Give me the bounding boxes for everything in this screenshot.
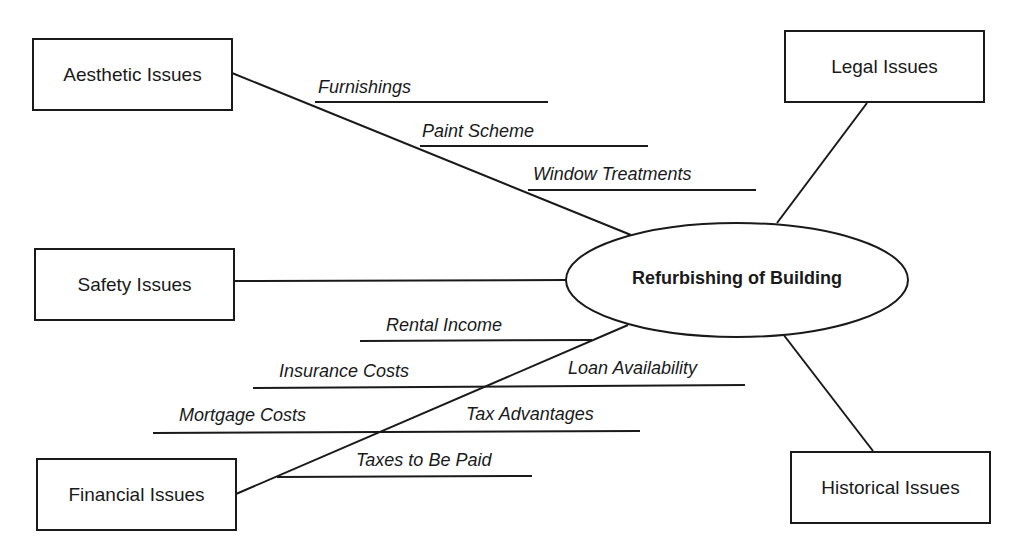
historical-issues-label: Historical Issues xyxy=(821,477,959,499)
aesthetic-connector xyxy=(232,73,631,235)
rental-income-underline xyxy=(360,340,592,341)
financial-issues-label: Financial Issues xyxy=(68,484,204,506)
subtopic-insurance-costs: Insurance Costs xyxy=(279,361,409,382)
subtopic-tax-advantages: Tax Advantages xyxy=(466,404,594,425)
legal-connector xyxy=(777,103,867,223)
subtopic-window-treatments: Window Treatments xyxy=(533,164,692,185)
subtopic-taxes-to-be-paid: Taxes to Be Paid xyxy=(356,450,491,471)
legal-issues-box: Legal Issues xyxy=(784,30,985,103)
aesthetic-issues-label: Aesthetic Issues xyxy=(63,64,201,86)
center-topic-label: Refurbishing of Building xyxy=(566,268,908,289)
subtopic-rental-income: Rental Income xyxy=(386,315,502,336)
safety-issues-label: Safety Issues xyxy=(77,274,191,296)
subtopic-mortgage-costs: Mortgage Costs xyxy=(179,405,306,426)
subtopic-loan-availability: Loan Availability xyxy=(568,358,697,379)
mortgage-tax-underline xyxy=(153,431,640,433)
subtopic-paint-scheme: Paint Scheme xyxy=(422,121,534,142)
safety-connector xyxy=(234,280,566,281)
historical-connector xyxy=(783,334,873,451)
historical-issues-box: Historical Issues xyxy=(790,451,991,524)
taxes-to-be-paid-underline xyxy=(277,476,532,477)
financial-issues-box: Financial Issues xyxy=(36,458,237,531)
safety-issues-box: Safety Issues xyxy=(34,248,235,321)
subtopic-furnishings: Furnishings xyxy=(318,77,411,98)
insurance-loan-underline xyxy=(253,385,745,388)
legal-issues-label: Legal Issues xyxy=(831,56,938,78)
aesthetic-issues-box: Aesthetic Issues xyxy=(32,38,233,111)
